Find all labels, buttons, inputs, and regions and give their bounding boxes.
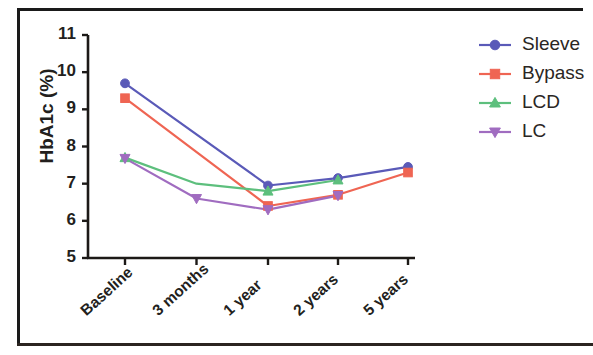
marker-sleeve <box>121 79 130 88</box>
plot-area <box>0 0 593 355</box>
marker-bypass <box>121 94 130 103</box>
series-line-sleeve <box>125 83 408 185</box>
marker-bypass <box>404 168 413 177</box>
chart-figure: HbA1c (%) 111098765 Baseline3 months1 ye… <box>0 0 593 355</box>
series-line-lcd <box>125 158 338 192</box>
